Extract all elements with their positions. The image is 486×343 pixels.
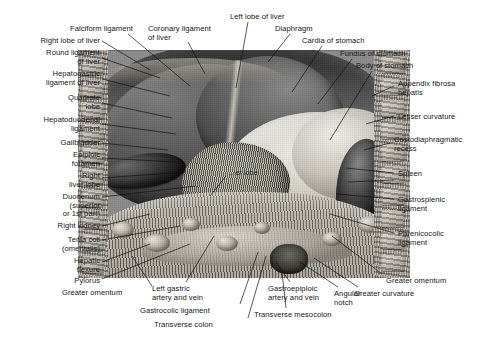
label-cardia-of-stomach: Cardia of stomach — [302, 37, 390, 46]
label-lesser-curvature: Lesser curvature — [398, 113, 486, 122]
label-hepatogastric-ligament: Hepatogastric ligament of liver — [2, 70, 100, 87]
omental-fat-lobule — [322, 232, 342, 246]
label-body-of-stomach: Body of stomach — [356, 62, 440, 71]
label-gallbladder: Gallbladder — [20, 139, 100, 148]
label-right-lobe-of-liver: Right lobe of liver — [8, 37, 100, 46]
label-transverse-mesocolon: Transverse mesocolon — [254, 311, 364, 320]
label-phrenicocolic-ligament: Phrenicocolic ligament — [398, 230, 486, 247]
label-gastrocolic-ligament: Gastrocolic ligament — [140, 307, 244, 316]
label-epiploic-foramen: Epiploic foramen — [26, 151, 100, 168]
plate-label-caudate-lobe: ...er lobe — [229, 168, 258, 177]
label-appendix-fibrosa-hepatis: Appendix fibrosa hepatis — [398, 80, 486, 97]
transverse-mesocolon-region — [270, 244, 308, 274]
omental-fat-lobule — [182, 218, 200, 231]
label-tenia-coli-omentalis: Tenia coli (omentalis) — [26, 236, 100, 253]
transverse-colon-region — [142, 226, 352, 266]
label-right-kidney: Right kidney — [18, 222, 100, 231]
label-greater-curvature: Greater curvature — [354, 290, 444, 299]
dissection-illustration — [78, 50, 410, 278]
label-fundus-of-stomach: Fundus of stomach — [340, 50, 432, 59]
label-round-ligament-of-liver: Round ligament of liver — [8, 49, 100, 66]
label-gastrosplenic-ligament: Gastrosplenic ligament — [398, 196, 486, 213]
omental-fat-lobule — [216, 236, 238, 251]
rib-slab — [381, 254, 405, 271]
label-transverse-colon: Transverse colon — [154, 321, 242, 330]
label-costodiaphragmatic-recess: Costodiaphragmatic recess — [394, 136, 486, 153]
omental-fat-lobule — [144, 234, 170, 252]
label-spleen: Spleen — [398, 170, 486, 179]
label-quadrate-lobe: Quadrate lobe — [20, 94, 100, 111]
label-hepatic-flexure: Hepatic flexure — [30, 257, 100, 274]
label-left-gastric-artery-vein: Left gastric artery and vein — [152, 285, 232, 302]
label-duodenum: Duodenum (superior or 1st part) — [20, 193, 100, 219]
omental-fat-lobule — [112, 222, 134, 238]
label-right-liver-lobe: Right liver lobe — [26, 172, 100, 189]
omental-fat-lobule — [254, 222, 270, 234]
label-greater-omentum-left: Greater omentum — [62, 289, 154, 298]
label-coronary-ligament: Coronary ligament of liver — [148, 25, 234, 42]
label-greater-omentum-right: Greater omentum — [386, 277, 482, 286]
label-hepatoduodenal-ligament: Hepatoduodenal ligament — [6, 116, 100, 133]
greater-omentum-region — [86, 192, 402, 278]
anatomy-figure: ...er lobe Right lobe of liverRound liga… — [0, 0, 486, 343]
label-pylorus: Pylorus — [34, 277, 100, 286]
label-diaphragm: Diaphragm — [275, 25, 333, 34]
label-left-lobe-of-liver: Left lobe of liver — [230, 13, 312, 22]
